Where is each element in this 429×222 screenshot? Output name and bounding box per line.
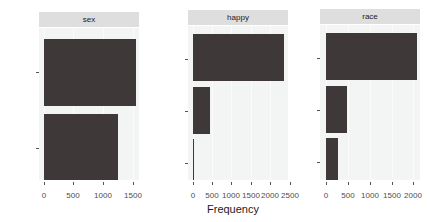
xtick-label: 0 xyxy=(42,191,46,200)
xtick-label: 2500 xyxy=(281,191,299,200)
xtick-label: 1500 xyxy=(383,191,401,200)
bar-other xyxy=(326,138,338,180)
xtick-label: 500 xyxy=(66,191,79,200)
xtick-label: 2000 xyxy=(261,191,279,200)
xtick-label: 500 xyxy=(205,191,218,200)
xtick-label: 1500 xyxy=(242,191,260,200)
x-axis-title: Frequency xyxy=(207,203,259,215)
plot-area-happy xyxy=(188,26,288,180)
bar-white xyxy=(326,33,417,80)
bar-happy xyxy=(193,34,284,81)
xtick-label: 1000 xyxy=(94,191,112,200)
bar-not-happy xyxy=(193,87,210,134)
xtick-label: 1000 xyxy=(222,191,240,200)
xtick-label: 2000 xyxy=(404,191,422,200)
bar-na xyxy=(193,139,194,180)
xtick-label: 1000 xyxy=(361,191,379,200)
bar-male xyxy=(44,114,118,180)
xtick-label: 1500 xyxy=(124,191,142,200)
xtick-label: 500 xyxy=(341,191,354,200)
bar-black xyxy=(326,86,347,133)
xtick-label: 0 xyxy=(191,191,195,200)
facet-strip-race: race xyxy=(320,9,420,24)
plot-area-race xyxy=(320,25,420,180)
plot-area-sex xyxy=(39,28,139,180)
bar-female xyxy=(44,39,136,106)
xtick-label: 0 xyxy=(324,191,328,200)
facet-strip-happy: happy xyxy=(188,10,288,25)
facet-strip-sex: sex xyxy=(39,12,139,27)
